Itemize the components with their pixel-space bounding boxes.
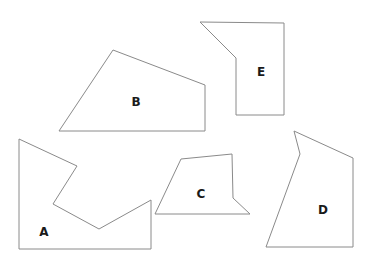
shape-b: B [59,50,205,131]
diagram-svg: A B C D E [0,0,374,265]
label-c: C [197,187,206,201]
label-b: B [131,95,140,109]
label-a: A [39,225,49,239]
shape-c: C [155,154,250,214]
polygon-d [266,131,353,247]
label-d: D [318,203,328,217]
label-e: E [257,65,265,79]
shape-e: E [200,22,284,115]
shape-d: D [266,131,353,247]
polygon-c [155,154,250,214]
shapes-diagram: A B C D E [0,0,374,265]
polygon-e [200,22,284,115]
polygon-b [59,50,205,131]
shape-a: A [19,139,151,249]
